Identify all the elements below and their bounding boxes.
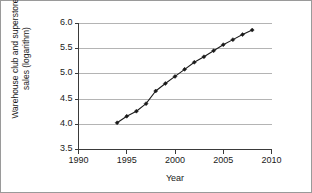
x-axis-tick-label: 2000 bbox=[155, 155, 195, 165]
x-axis-tick-label: 1995 bbox=[107, 155, 147, 165]
y-axis-tick-label: 5.0 bbox=[47, 67, 73, 77]
y-axis-tick-label: 6.0 bbox=[47, 17, 73, 27]
x-axis-tick-label: 1990 bbox=[59, 155, 99, 165]
x-axis-tick-label: 2005 bbox=[203, 155, 243, 165]
y-axis-tick-label: 5.5 bbox=[47, 42, 73, 52]
y-axis-tick-label: 4.5 bbox=[47, 93, 73, 103]
x-axis-tick-label: 2010 bbox=[252, 155, 292, 165]
y-axis-tick-label: 4.0 bbox=[47, 118, 73, 128]
y-axis-tick-label: 3.5 bbox=[47, 143, 73, 153]
chart-figure: Warehouse club and superstore sales (log… bbox=[0, 0, 312, 193]
